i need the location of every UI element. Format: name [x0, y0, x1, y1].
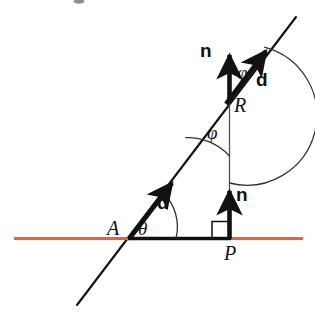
incident-ray-line — [77, 17, 296, 305]
label-normal-lower: n — [236, 185, 248, 204]
label-point-r: R — [234, 95, 246, 115]
top-crop-artifact — [74, 0, 85, 4]
geometry-diagram: n φ d R φ n d A θ P — [0, 0, 315, 329]
label-theta: θ — [138, 219, 147, 238]
right-angle-marker — [212, 222, 229, 239]
label-phi-lower: φ — [207, 123, 218, 142]
label-point-a: A — [107, 218, 119, 238]
label-point-p: P — [224, 243, 236, 263]
label-direction-upper: d — [256, 70, 268, 89]
diagram-canvas — [0, 0, 315, 329]
label-normal-upper: n — [200, 41, 212, 60]
label-phi-upper: φ — [237, 63, 248, 82]
label-direction-lower: d — [157, 193, 169, 212]
